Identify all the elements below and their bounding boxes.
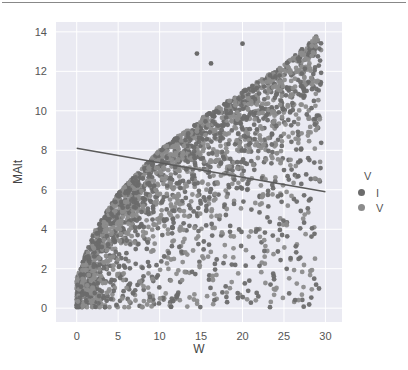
y-tick-label: 0 [41,302,47,314]
y-axis-ticks: 02468101214 [35,26,47,314]
y-tick-label: 14 [35,26,47,38]
y-tick-label: 2 [41,263,47,275]
y-tick-label: 4 [41,223,47,235]
legend-title: V [364,170,383,182]
legend-label: I [376,187,379,199]
x-tick-label: 25 [278,330,290,342]
x-tick-label: 30 [319,330,331,342]
y-axis-label: MAlt [11,159,25,184]
legend-item-v: V [354,200,383,215]
y-tick-label: 8 [41,144,47,156]
scatter-chart: 051015202530 02468101214 W MAlt [0,0,408,370]
legend-marker-icon [358,204,365,211]
x-tick-label: 5 [115,330,121,342]
x-tick-label: 20 [236,330,248,342]
y-tick-label: 6 [41,184,47,196]
legend-item-i: I [354,185,383,200]
x-tick-label: 10 [153,330,165,342]
legend: V I V [354,170,383,215]
x-axis-ticks: 051015202530 [74,330,332,342]
legend-marker-icon [358,189,365,196]
y-tick-label: 12 [35,65,47,77]
y-tick-label: 10 [35,105,47,117]
x-tick-label: 0 [74,330,80,342]
x-tick-label: 15 [195,330,207,342]
legend-label: V [376,202,383,214]
x-axis-label: W [193,342,205,356]
